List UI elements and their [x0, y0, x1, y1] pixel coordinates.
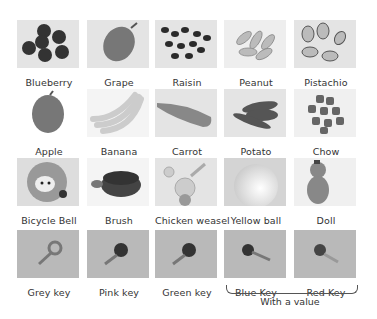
item-label: Bicycle Bell: [17, 215, 81, 226]
item-label: Grey key: [17, 287, 81, 298]
item-label: Pink key: [87, 287, 151, 298]
item-label: Raisin: [155, 77, 219, 88]
chicken-weasel-icon: [155, 158, 217, 206]
item-raisin: Raisin: [155, 20, 219, 88]
key-icon: [155, 230, 217, 278]
item-label: Chicken weasel: [155, 215, 219, 226]
item-label: Potato: [224, 146, 288, 157]
item-grape: Grape: [87, 20, 151, 88]
item-label: Blueberry: [17, 77, 81, 88]
grape-icon: [87, 20, 149, 68]
item-label: Doll: [294, 215, 358, 226]
with-value-caption: With a value: [230, 296, 350, 307]
banana-icon: [87, 89, 149, 137]
item-label: Green key: [155, 287, 219, 298]
bicycle-bell-icon: [17, 158, 79, 206]
item-label: Pistachio: [294, 77, 358, 88]
key-icon: [17, 230, 79, 278]
item-peanut: Peanut: [224, 20, 288, 88]
item-chow: Chow: [294, 89, 358, 157]
item-label: Brush: [87, 215, 151, 226]
yellow-ball-icon: [224, 158, 286, 206]
item-label: Peanut: [224, 77, 288, 88]
doll-icon: [294, 158, 356, 206]
key-icon: [294, 230, 356, 278]
item-label: Carrot: [155, 146, 219, 157]
item-pistachio: Pistachio: [294, 20, 358, 88]
item-label: Yellow ball: [224, 215, 288, 226]
item-label: Chow: [294, 146, 358, 157]
key-icon: [224, 230, 286, 278]
item-label: Banana: [87, 146, 151, 157]
item-doll: Doll: [294, 158, 358, 226]
item-apple: Apple: [17, 89, 81, 157]
value-bracket: [226, 285, 358, 294]
item-yellow-ball: Yellow ball: [224, 158, 288, 226]
item-banana: Banana: [87, 89, 151, 157]
apple-icon: [17, 89, 79, 137]
peanut-icon: [224, 20, 286, 68]
potato-icon: [224, 89, 286, 137]
item-blueberry: Blueberry: [17, 20, 81, 88]
pistachio-icon: [294, 20, 356, 68]
blueberry-icon: [17, 20, 79, 68]
item-grey-key: Grey key: [17, 230, 81, 298]
item-brush: Brush: [87, 158, 151, 226]
item-pink-key: Pink key: [87, 230, 151, 298]
item-carrot: Carrot: [155, 89, 219, 157]
chow-icon: [294, 89, 356, 137]
brush-icon: [87, 158, 149, 206]
item-green-key: Green key: [155, 230, 219, 298]
key-icon: [87, 230, 149, 278]
item-bicycle-bell: Bicycle Bell: [17, 158, 81, 226]
item-label: Grape: [87, 77, 151, 88]
carrot-icon: [155, 89, 217, 137]
item-chicken-weasel: Chicken weasel: [155, 158, 219, 226]
item-potato: Potato: [224, 89, 288, 157]
item-label: Apple: [17, 146, 81, 157]
raisin-icon: [155, 20, 217, 68]
